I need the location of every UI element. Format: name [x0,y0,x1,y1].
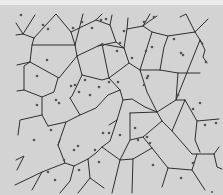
voronoi-edges [15,14,222,193]
voronoi-diagram [0,0,223,195]
